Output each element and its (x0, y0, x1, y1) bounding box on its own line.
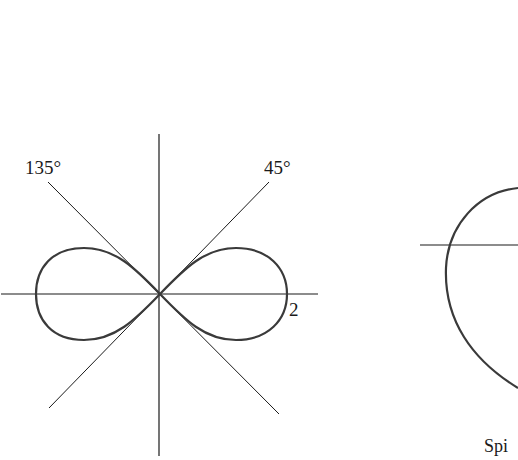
spiral-curve (446, 188, 518, 388)
lemniscate-figure (1, 134, 318, 456)
angle-label-135: 135° (25, 158, 61, 177)
angle-label-45: 45° (264, 158, 291, 177)
radius-label: 2 (289, 300, 299, 319)
diagram-canvas (0, 0, 518, 460)
spiral-caption: Spi (484, 437, 508, 455)
spiral-figure (420, 188, 518, 388)
